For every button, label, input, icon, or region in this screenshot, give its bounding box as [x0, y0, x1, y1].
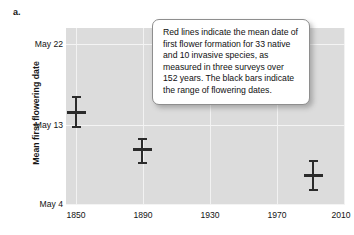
x-tick-label-2010: 2010 [321, 210, 354, 220]
mean-line-2002 [304, 174, 323, 177]
x-tick-label-1930: 1930 [190, 210, 230, 220]
range-cap-bottom-1902 [138, 162, 147, 164]
y-tick-label-may4: May 4 [40, 199, 63, 209]
y-tick-label-may22: May 22 [35, 39, 63, 49]
figure-panel-a: a. Mean first flowering date May 22 May … [0, 0, 354, 235]
mean-line-1850 [67, 111, 86, 114]
gridline-horizontal-may4 [66, 204, 345, 205]
mean-line-1902 [133, 148, 152, 151]
range-cap-top-1902 [138, 138, 147, 140]
x-tick-label-1850: 1850 [56, 210, 96, 220]
annotation-callout-text: Red lines indicate the mean date of firs… [163, 27, 300, 97]
gridline-horizontal-may13 [66, 125, 345, 126]
range-cap-bottom-1850 [72, 126, 81, 128]
y-tick-label-may13: May 13 [35, 120, 63, 130]
range-bar-1902 [141, 138, 143, 163]
range-cap-top-2002 [309, 160, 318, 162]
range-cap-top-1850 [72, 96, 81, 98]
range-cap-bottom-2002 [309, 189, 318, 191]
annotation-callout: Red lines indicate the mean date of firs… [152, 19, 310, 105]
x-tick-label-1890: 1890 [123, 210, 163, 220]
gridline-vertical-1890 [143, 28, 144, 205]
gridline-vertical-2010 [344, 28, 345, 205]
y-axis-tick-labels: May 22 May 13 May 4 [0, 0, 63, 235]
x-tick-label-1970: 1970 [257, 210, 297, 220]
